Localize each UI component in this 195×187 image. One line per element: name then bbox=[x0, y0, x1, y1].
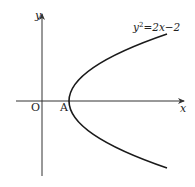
equation-rhs: =2x−2 bbox=[143, 21, 180, 33]
diagram-canvas: y x O A y2=2x−2 bbox=[0, 0, 195, 187]
y-axis-label: y bbox=[34, 9, 42, 22]
origin-label: O bbox=[31, 101, 40, 114]
equation-label: y2=2x−2 bbox=[132, 21, 181, 33]
point-a-label: A bbox=[59, 101, 69, 114]
x-axis-label: x bbox=[180, 102, 187, 115]
